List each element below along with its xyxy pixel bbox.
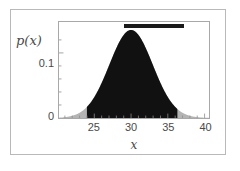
x-axis-title: x: [114, 138, 154, 152]
density-curve-shaded-interval: [59, 30, 209, 118]
y-tick-label-0.1: 0.1: [20, 57, 54, 69]
x-tick-label-30: 30: [119, 121, 143, 133]
y-axis-tick-marks: [59, 40, 63, 105]
x-tick-label-25: 25: [82, 121, 106, 133]
x-tick-label-35: 35: [156, 121, 180, 133]
x-tick-label-40: 40: [194, 121, 218, 133]
interval-marker-bar: [124, 24, 184, 28]
density-plot-svg: [59, 22, 209, 118]
y-axis-title: p(x): [16, 33, 42, 48]
figure-container: p(x) 0.1 0 25 30 35 40 x: [0, 0, 240, 171]
plot-panel: [58, 21, 210, 119]
y-tick-label-0: 0: [20, 110, 54, 122]
